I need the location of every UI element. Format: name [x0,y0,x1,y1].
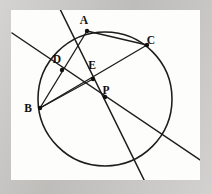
vertex-dot-b [38,106,42,110]
vertex-label-b: B [24,102,32,114]
vertex-label-e: E [88,59,96,71]
vertex-label-a: A [80,14,89,26]
vertex-label-c: C [147,34,155,46]
vertex-dot-d [60,68,64,72]
geometry-diagram-canvas: ACDEBP [0,0,212,194]
vertex-label-p: P [102,84,109,96]
geometry-figure: ACDEBP [0,0,212,194]
vertex-label-d: D [53,53,61,65]
vertex-dot-a [85,29,89,33]
vertex-dot-e [91,77,95,81]
